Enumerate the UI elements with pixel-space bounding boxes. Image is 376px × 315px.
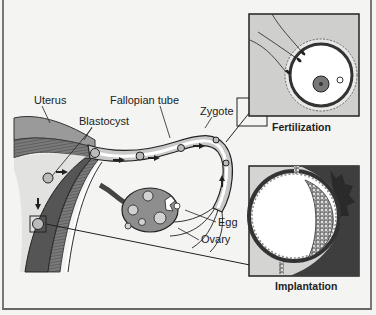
label-leader-lines	[0, 0, 376, 315]
caption-implantation: Implantation	[275, 280, 337, 292]
caption-fertilization: Fertilization	[272, 121, 331, 133]
